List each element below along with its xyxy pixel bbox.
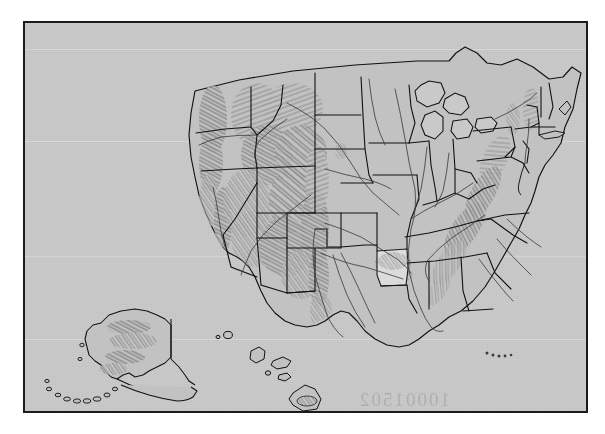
map-plate-frame: 10001502	[23, 21, 588, 413]
hawaii-inset	[216, 331, 321, 411]
screenshot-root: 10001502	[0, 0, 605, 434]
alaska-inset	[45, 309, 197, 403]
us-relief-map	[25, 23, 586, 411]
florida-keys	[486, 352, 513, 358]
highlighted-state-arkansas	[377, 249, 408, 286]
